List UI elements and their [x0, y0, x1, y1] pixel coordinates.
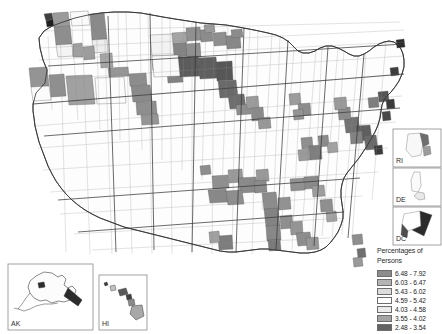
legend-item: 6.48 - 7.92 — [377, 269, 441, 278]
legend-label: 3.55 - 4.02 — [395, 315, 426, 322]
legend-title-line1: Percentages of — [377, 247, 441, 255]
legend-item: 5.43 - 6.02 — [377, 287, 441, 296]
map-legend: Percentages of Persons 6.48 - 7.92 6.03 … — [377, 247, 441, 332]
legend-item: 4.59 - 5.42 — [377, 296, 441, 305]
legend-swatch — [377, 270, 392, 277]
legend-swatch — [377, 306, 392, 313]
inset-label-dc: DC — [396, 235, 406, 242]
legend-label: 2.48 - 3.54 — [395, 324, 426, 331]
legend-swatch — [377, 279, 392, 286]
legend-label: 6.03 - 6.47 — [395, 279, 426, 286]
choropleth-map-figure: RI DE DC AK — [0, 0, 442, 334]
inset-label-ri: RI — [396, 157, 403, 164]
legend-swatch — [377, 315, 392, 322]
legend-label: 5.43 - 6.02 — [395, 288, 426, 295]
inset-label-ak: AK — [11, 320, 21, 327]
inset-label-hi: HI — [102, 320, 109, 327]
legend-swatch — [377, 297, 392, 304]
inset-rhode-island: RI — [393, 129, 441, 167]
inset-label-de: DE — [396, 196, 406, 203]
contiguous-us-map — [29, 11, 405, 267]
inset-hawaii: HI — [99, 275, 147, 330]
inset-district-of-columbia: DC — [393, 207, 441, 245]
legend-item: 2.48 - 3.54 — [377, 323, 441, 332]
legend-label: 4.59 - 5.42 — [395, 297, 426, 304]
legend-item: 3.55 - 4.02 — [377, 314, 441, 323]
inset-alaska: AK — [8, 264, 93, 330]
legend-item: 6.03 - 6.47 — [377, 278, 441, 287]
us-county-map: RI DE DC AK — [0, 0, 442, 334]
legend-swatch — [377, 324, 392, 331]
legend-item: 4.03 - 4.58 — [377, 305, 441, 314]
legend-swatch — [377, 288, 392, 295]
legend-label: 4.03 - 4.58 — [395, 306, 426, 313]
inset-delaware: DE — [393, 168, 441, 206]
legend-label: 6.48 - 7.92 — [395, 270, 426, 277]
legend-title-line2: Persons — [377, 257, 441, 265]
